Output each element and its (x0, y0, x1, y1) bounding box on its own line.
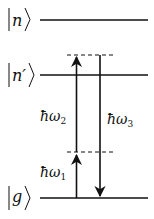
ket-angle (25, 186, 30, 210)
transition-label-omega1: ħω1 (40, 164, 66, 182)
ket-angle (29, 63, 34, 87)
level-label-n: n (12, 11, 22, 30)
level-n-prime: n′ (9, 63, 148, 87)
transition-label-omega2: ħω2 (40, 108, 66, 126)
ket-angle (25, 8, 30, 31)
level-label-n-prime: n′ (12, 66, 26, 85)
level-g: g (9, 186, 148, 210)
energy-level-diagram: n n′ g ħω1 ħω2 ħω3 (0, 0, 154, 219)
transition-label-omega3: ħω3 (107, 111, 133, 129)
level-n: n (9, 8, 148, 31)
level-label-g: g (12, 187, 22, 206)
